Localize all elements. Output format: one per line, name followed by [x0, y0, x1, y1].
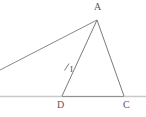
segment-A-C: [97, 20, 124, 96]
vertex-label-c: C: [123, 100, 130, 110]
ray-A-left: [0, 20, 97, 70]
geometry-figure: A D C I: [0, 0, 146, 117]
vertex-label-d: D: [57, 100, 64, 110]
segment-A-D: [62, 20, 97, 96]
tick-on-segment-AD: [65, 64, 70, 71]
point-label-i: I: [70, 64, 73, 74]
vertex-label-a: A: [94, 2, 101, 12]
